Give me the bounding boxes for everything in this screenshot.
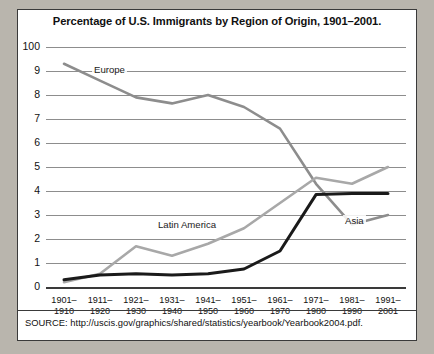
series-line-latin-america [64,167,388,282]
y-axis-tick-label: 1 [0,256,40,268]
y-axis-tick-label: 4 [0,184,40,196]
y-axis-tick-label: 9 [0,64,40,76]
y-axis-tick-label: 2 [0,232,40,244]
y-axis-tick-label: 5 [0,160,40,172]
y-axis-tick-label: 8 [0,88,40,100]
footer-divider [18,310,416,311]
y-axis-tick-label: 7 [0,112,40,124]
series-label-latin-america: Latin America [156,219,218,230]
x-axis-line [46,287,406,289]
chart-card: Percentage of U.S. Immigrants by Region … [17,9,417,341]
series-label-europe: Europe [92,64,127,75]
source-note: SOURCE: http://uscis.gov/graphics/shared… [25,317,363,328]
y-axis-tick-label: 100 [0,40,40,52]
y-axis-tick-label: 6 [0,136,40,148]
chart-title: Percentage of U.S. Immigrants by Region … [18,15,416,27]
series-line-europe [64,64,388,225]
x-axis-tick-label: 1991–2001 [366,295,410,316]
series-lines [46,47,406,287]
series-label-asia: Asia [343,215,366,226]
y-axis-tick-label: 3 [0,208,40,220]
y-axis-tick-label: 0 [0,280,40,292]
plot-area: 1009876543210 EuropeLatin AmericaAsia 19… [46,47,406,287]
